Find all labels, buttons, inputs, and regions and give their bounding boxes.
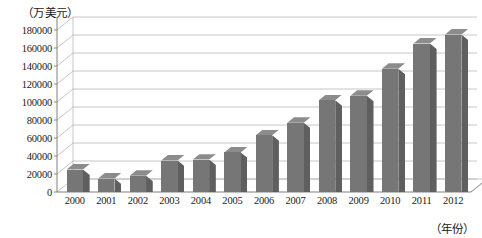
y-axis-tick-labels: 0200004000060000800001000001200001400001… xyxy=(0,30,52,192)
bar-2003 xyxy=(161,161,177,193)
bar-2011 xyxy=(413,44,429,193)
x-axis-tick-2000: 2000 xyxy=(65,195,85,206)
bar-side-face xyxy=(398,69,405,192)
bar-side-face xyxy=(304,123,311,192)
y-axis-tick-180000: 180000 xyxy=(22,25,52,36)
bar-side-face xyxy=(367,96,374,192)
x-axis-tick-2002: 2002 xyxy=(128,195,148,206)
bar-side-face xyxy=(335,100,342,192)
x-axis-tick-2009: 2009 xyxy=(349,195,369,206)
y-axis-tick-20000: 20000 xyxy=(27,169,52,180)
y-axis-tick-80000: 80000 xyxy=(27,115,52,126)
bar-front-face xyxy=(382,69,398,192)
bar-side-face xyxy=(430,44,437,193)
bar-2007 xyxy=(287,123,303,192)
bar-2012 xyxy=(445,35,461,193)
plot-area xyxy=(57,30,477,192)
bar-front-face xyxy=(287,123,303,192)
x-axis-tick-2007: 2007 xyxy=(285,195,305,206)
bar-front-face xyxy=(130,176,146,192)
bar-chart: （万美元） 0200004000060000800001000001200001… xyxy=(0,0,482,238)
y-axis-tick-40000: 40000 xyxy=(27,151,52,162)
bar-front-face xyxy=(350,96,366,192)
bar-2001 xyxy=(98,179,114,193)
bar-2010 xyxy=(382,69,398,192)
x-axis-tick-2012: 2012 xyxy=(443,195,463,206)
bar-2000 xyxy=(67,170,83,193)
y-axis-tick-100000: 100000 xyxy=(22,97,52,108)
bar-front-face xyxy=(256,135,272,192)
x-axis-tick-2008: 2008 xyxy=(317,195,337,206)
bar-2009 xyxy=(350,96,366,192)
bar-front-face xyxy=(413,44,429,193)
bar-front-face xyxy=(193,160,209,192)
bar-side-face xyxy=(241,152,248,192)
bar-front-face xyxy=(224,152,240,192)
bar-side-face xyxy=(461,35,468,193)
x-axis-tick-2003: 2003 xyxy=(159,195,179,206)
x-axis-tick-2004: 2004 xyxy=(191,195,211,206)
y-axis-tick-160000: 160000 xyxy=(22,43,52,54)
bar-side-face xyxy=(272,135,279,192)
y-axis-tick-140000: 140000 xyxy=(22,61,52,72)
bar-front-face xyxy=(161,161,177,193)
bar-2005 xyxy=(224,152,240,192)
x-axis-tick-2006: 2006 xyxy=(254,195,274,206)
bar-front-face xyxy=(445,35,461,193)
y-axis-tick-120000: 120000 xyxy=(22,79,52,90)
bar-front-face xyxy=(98,179,114,193)
x-axis-tick-2010: 2010 xyxy=(380,195,400,206)
y-axis-unit-label: （万美元） xyxy=(22,4,79,20)
x-axis-caption: （年份） xyxy=(430,220,474,236)
bar-2002 xyxy=(130,176,146,192)
y-axis-tick-0: 0 xyxy=(47,187,52,198)
bar-2006 xyxy=(256,135,272,192)
bar-side-face xyxy=(209,160,216,192)
bar-front-face xyxy=(319,100,335,192)
bar-front-face xyxy=(67,170,83,193)
y-axis-tick-60000: 60000 xyxy=(27,133,52,144)
x-axis-tick-2011: 2011 xyxy=(412,195,432,206)
x-axis-tick-labels: 2000200120022003200420052006200720082009… xyxy=(57,195,477,211)
x-axis-tick-2001: 2001 xyxy=(96,195,116,206)
x-axis-tick-2005: 2005 xyxy=(222,195,242,206)
bar-side-face xyxy=(178,161,185,193)
bar-2008 xyxy=(319,100,335,192)
bar-2004 xyxy=(193,160,209,192)
